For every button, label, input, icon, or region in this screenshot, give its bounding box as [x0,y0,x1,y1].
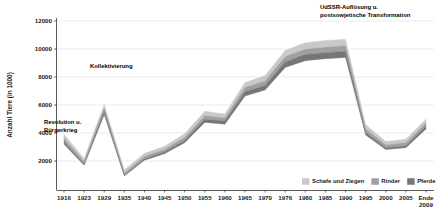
x-tick-label: 1990 [339,194,353,201]
stacked-area-bands [64,39,426,176]
x-tick-label: 1976 [278,194,292,201]
chart-legend: Schafe und ZiegenRinderPferde [302,178,436,185]
area-band-schafe-und-ziegen [64,39,426,173]
x-tick-label: 1980 [298,194,312,201]
y-axis-title: Anzahl Tiere (in 1000) [6,72,14,138]
y-tick-label: 2000 [38,157,52,164]
x-tick-label: 2005 [399,194,413,201]
annotation-revolution-line2: Bürgerkrieg [44,127,78,133]
x-tick-label: 1960 [218,194,232,201]
annotation-udssr-line2: postsowjetische Transformation [320,12,411,18]
area-band-pferde [64,51,426,176]
x-tick-label: 1935 [117,194,131,201]
annotation-revolution: Revolution u. Bürgerkrieg [44,119,82,133]
annotation-revolution-line1: Revolution u. [44,119,82,125]
legend-label: Schafe und Ziegen [312,178,365,184]
x-tick-label: 1940 [138,194,152,201]
x-axis-ticks: 1916192319291935194019451950195519601965… [57,190,434,208]
x-tick-label: 1929 [97,194,111,201]
y-axis-ticks: 20004000600080001000012000 [35,17,57,164]
y-tick-label: 6000 [38,101,52,108]
legend-swatch [302,178,310,185]
x-tick-label: 1965 [238,194,252,201]
legend-label: Rinder [381,178,400,184]
x-tick-label: 1950 [178,194,192,201]
x-tick-label: 1970 [258,194,272,201]
x-tick-label: 1916 [57,194,71,201]
x-tick-label: 2000 [379,194,393,201]
x-tick-label: 1985 [319,194,333,201]
chart-canvas: 20004000600080001000012000 Anzahl Tiere … [0,0,442,224]
x-tick-label: 1945 [158,194,172,201]
annotation-udssr-line1: UdSSR-Auflösung u. [320,4,378,10]
x-tick-label: 1955 [198,194,212,201]
annotation-kollektivierung: Kollektivierung [90,63,133,69]
y-tick-label: 12000 [35,17,53,24]
legend-swatch [407,178,415,185]
legend-label: Pferde [417,178,436,184]
x-tick-label: 1995 [359,194,373,201]
livestock-area-chart: 20004000600080001000012000 Anzahl Tiere … [0,0,442,224]
annotation-udssr: UdSSR-Auflösung u. postsowjetische Trans… [320,4,411,18]
y-tick-label: 10000 [35,45,53,52]
y-tick-label: 8000 [38,73,52,80]
x-tick-label: 1923 [77,194,91,201]
x-tick-label-second-line: 2009 [419,201,433,208]
annotation-kollektivierung-line1: Kollektivierung [90,63,133,69]
x-tick-label: Ende [418,194,434,201]
legend-swatch [371,178,379,185]
